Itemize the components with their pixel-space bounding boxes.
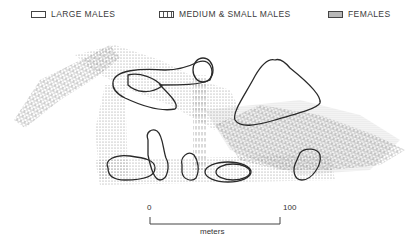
scale-end-label: 100 xyxy=(283,203,296,212)
mm-range-right-sweep xyxy=(215,105,405,170)
scale-unit-label: meters xyxy=(200,227,224,236)
scale-line xyxy=(145,213,305,227)
scale-bar: 0 100 meters xyxy=(145,203,305,243)
scale-start-label: 0 xyxy=(147,203,151,212)
